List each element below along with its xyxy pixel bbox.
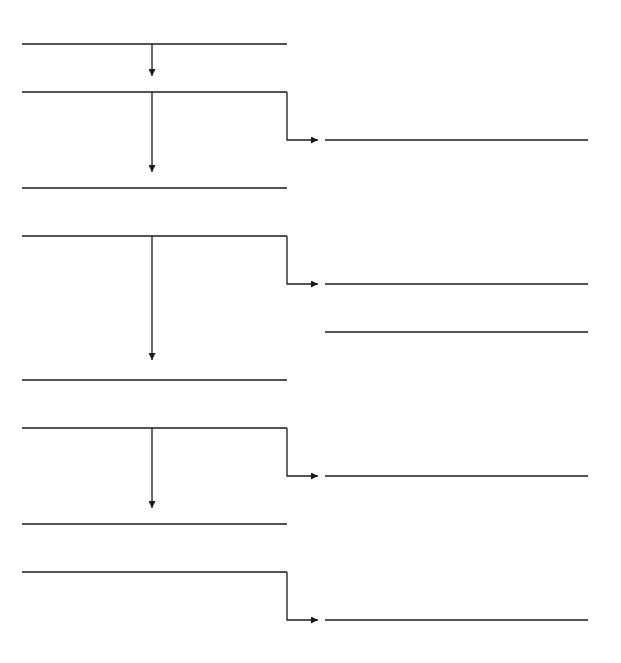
right-column-lines xyxy=(325,140,588,620)
elbow-arrow-icon xyxy=(287,428,318,476)
elbow-arrow-icon xyxy=(287,572,318,620)
left-column-lines xyxy=(22,44,287,572)
flow-diagram xyxy=(0,0,621,663)
elbow-arrow-icon xyxy=(287,92,318,140)
elbow-arrow-icon xyxy=(287,236,318,284)
elbow-arrows xyxy=(287,92,318,620)
